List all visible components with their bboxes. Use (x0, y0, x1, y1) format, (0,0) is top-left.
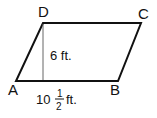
base-unit: ft. (66, 92, 77, 107)
vertex-label-c: C (138, 5, 149, 22)
base-whole: 10 (36, 92, 50, 107)
parallelogram-abcd (16, 23, 141, 81)
base-denominator: 2 (56, 101, 62, 112)
parallelogram-diagram: A B C D 6 ft. 10 1 2 ft. (0, 0, 157, 118)
base-label: 10 1 2 ft. (36, 88, 77, 112)
vertex-label-a: A (8, 81, 18, 98)
vertex-label-b: B (110, 81, 120, 98)
base-numerator: 1 (57, 88, 63, 99)
vertex-label-d: D (38, 3, 49, 20)
height-label: 6 ft. (50, 48, 72, 63)
